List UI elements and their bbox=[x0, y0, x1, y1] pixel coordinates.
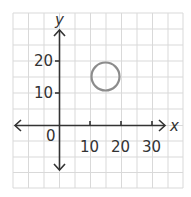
x-tick-20: 20 bbox=[111, 138, 130, 156]
y-tick-10: 10 bbox=[34, 84, 53, 102]
y-axis bbox=[54, 30, 65, 170]
x-axis-label: x bbox=[169, 117, 179, 135]
origin-label: 0 bbox=[46, 127, 56, 145]
y-axis-label: y bbox=[54, 11, 65, 29]
x-tick-10: 10 bbox=[80, 138, 99, 156]
coordinate-plane: y x 0 10 20 30 20 10 bbox=[0, 0, 191, 197]
y-tick-20: 20 bbox=[34, 52, 53, 70]
x-tick-30: 30 bbox=[142, 138, 161, 156]
